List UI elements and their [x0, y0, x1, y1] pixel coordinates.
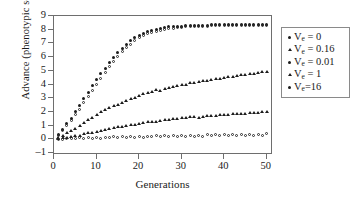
data-point — [129, 135, 132, 138]
data-point — [223, 24, 226, 27]
x-tick-label: 20 — [118, 160, 158, 171]
data-point — [257, 133, 260, 136]
y-tick-label: 9 — [6, 10, 46, 20]
data-point — [176, 26, 179, 29]
data-point — [91, 89, 94, 92]
data-point — [133, 136, 136, 139]
data-point — [112, 60, 115, 63]
data-point — [163, 134, 166, 137]
data-point — [231, 24, 234, 27]
legend-item-label: Ve = 0.16 — [294, 43, 334, 56]
data-point — [108, 136, 111, 139]
data-point — [227, 134, 230, 137]
data-point — [82, 101, 85, 104]
data-point — [116, 55, 119, 58]
data-point — [82, 97, 85, 100]
data-point — [70, 137, 73, 140]
data-point — [142, 136, 145, 139]
data-point — [74, 137, 77, 140]
data-point — [87, 95, 90, 98]
data-point — [121, 135, 124, 138]
data-point — [189, 25, 192, 28]
x-tick — [266, 154, 267, 159]
data-point — [167, 135, 170, 138]
data-point — [104, 71, 107, 74]
legend-item[interactable]: Ve = 0.16 — [285, 44, 347, 57]
data-point — [129, 39, 132, 42]
data-point — [138, 36, 141, 39]
legend-item-label: Ve = 0.01 — [294, 56, 334, 69]
data-point — [172, 27, 175, 30]
y-tick-label: 5 — [6, 65, 46, 75]
legend-item[interactable]: Ve = 1 — [285, 69, 347, 82]
legend-item-label: Ve = 1 — [294, 68, 321, 81]
x-tick — [138, 154, 139, 159]
data-point — [112, 135, 115, 138]
data-point — [65, 137, 68, 140]
data-point — [104, 136, 107, 139]
legend-item-label: Ve = 0 — [294, 31, 321, 44]
data-point — [121, 50, 124, 53]
data-point — [193, 25, 196, 28]
data-point — [214, 133, 217, 136]
data-point — [155, 30, 158, 33]
y-tick-label: 4 — [6, 79, 46, 89]
y-tick-label: –1 — [6, 147, 46, 157]
data-point — [112, 56, 115, 59]
data-point — [61, 138, 64, 141]
data-point — [252, 134, 255, 137]
data-point — [108, 61, 111, 64]
data-point — [150, 31, 153, 34]
legend-item[interactable]: Ve=16 — [285, 81, 347, 94]
x-tick — [96, 154, 97, 159]
data-point — [218, 24, 221, 27]
data-point — [197, 134, 200, 137]
data-point — [248, 133, 251, 136]
x-tick-label: 10 — [76, 160, 116, 171]
data-point — [167, 27, 170, 30]
legend-marker-icon — [285, 73, 294, 76]
data-point — [82, 137, 85, 140]
legend-item[interactable]: Ve = 0 — [285, 31, 347, 44]
x-tick — [181, 154, 182, 159]
data-point — [125, 136, 128, 139]
data-point — [218, 134, 221, 137]
data-point — [244, 24, 247, 27]
data-point — [227, 24, 230, 27]
data-point — [87, 91, 90, 94]
data-point — [244, 134, 247, 137]
x-tick-label: 50 — [246, 160, 286, 171]
data-point — [82, 121, 86, 124]
data-point — [214, 24, 217, 27]
y-tick-label: 1 — [6, 120, 46, 130]
data-point — [87, 136, 90, 139]
legend-item[interactable]: Ve = 0.01 — [285, 56, 347, 69]
data-point — [138, 135, 141, 138]
data-point — [159, 29, 162, 32]
y-tick-label: 3 — [6, 92, 46, 102]
legend-marker-icon — [285, 86, 294, 89]
x-tick — [53, 154, 54, 159]
data-point — [210, 134, 213, 137]
data-point — [99, 72, 102, 75]
x-tick-label: 30 — [161, 160, 201, 171]
data-point — [57, 138, 60, 141]
data-point — [159, 135, 162, 138]
data-point — [150, 135, 153, 138]
y-tick-label: 7 — [6, 37, 46, 47]
data-point — [261, 134, 264, 137]
data-point — [70, 119, 73, 122]
data-point — [146, 32, 149, 35]
legend-marker-icon — [285, 48, 294, 51]
data-point — [73, 127, 77, 130]
data-point — [176, 135, 179, 138]
data-point — [172, 134, 175, 137]
data-point — [235, 134, 238, 137]
data-point — [201, 135, 204, 138]
data-point — [61, 129, 64, 132]
x-tick-label: 0 — [33, 160, 73, 171]
data-point — [261, 24, 264, 27]
y-tick-label: 0 — [6, 133, 46, 143]
data-point — [99, 137, 102, 140]
data-point — [155, 134, 158, 137]
